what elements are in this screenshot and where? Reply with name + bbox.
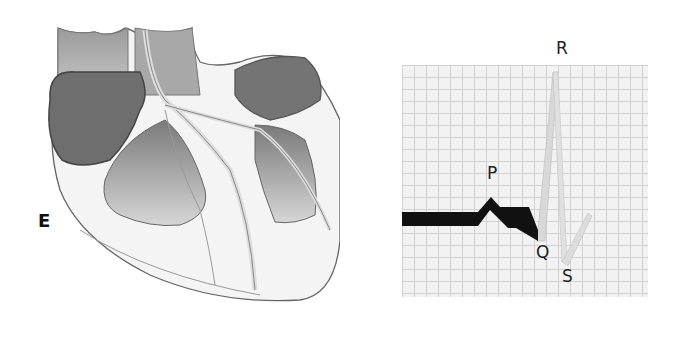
- p-wave-label: P: [487, 163, 497, 183]
- ecg-strip: P Q R S: [390, 30, 676, 310]
- q-wave-label: Q: [536, 242, 549, 262]
- s-wave-label: S: [562, 266, 573, 286]
- heart-diagram: [0, 0, 340, 342]
- ecg-trace: [390, 30, 676, 310]
- r-wave-label: R: [556, 38, 568, 58]
